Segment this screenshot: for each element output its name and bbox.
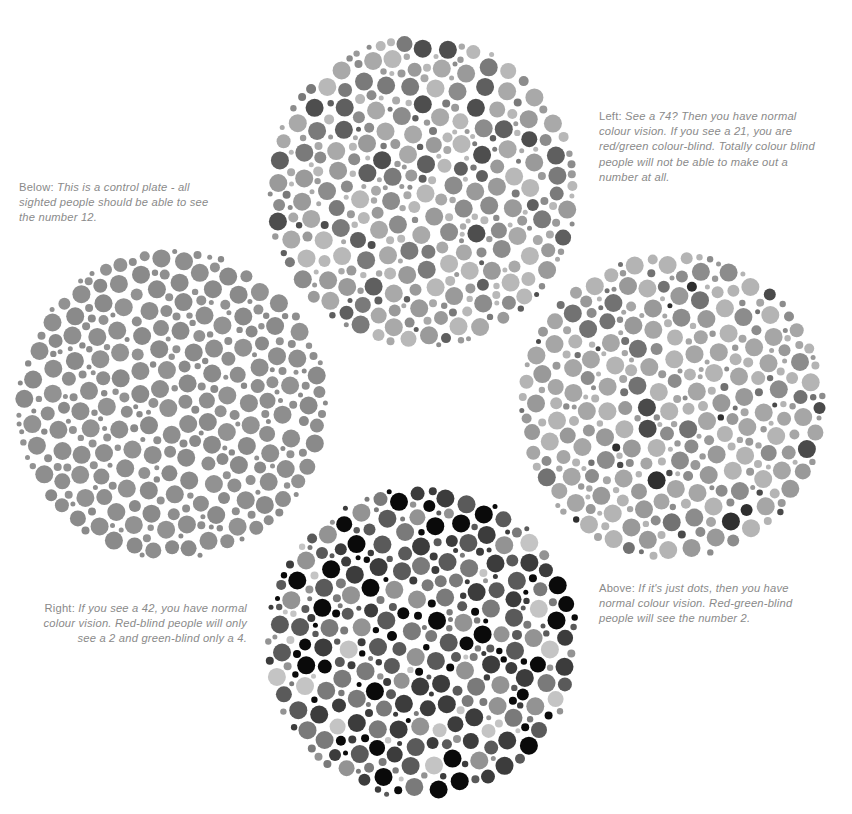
plate-dot [101,390,107,396]
plate-dot [533,365,551,383]
plate-dot [779,344,791,356]
plate-dot [625,364,637,376]
plate-dot [125,516,143,534]
plate-dot [121,406,133,418]
plate-dot [623,542,635,554]
plate-dot [707,529,725,547]
plate-dot [730,368,748,386]
plate-dot [405,169,417,181]
plate-dot [409,509,425,525]
plate-dot [493,574,498,579]
plate-dot [229,518,247,536]
plate-dot [470,164,476,170]
plate-dot [387,747,403,763]
plate-dot [414,327,419,332]
plate-dot [103,434,111,442]
plate-dot [623,439,641,457]
plate-dot [195,363,201,369]
plate-dot [509,227,527,245]
plate-dot [648,471,666,489]
plate-dot [342,608,354,620]
plate-dot [474,625,492,643]
plate-dot [191,406,199,414]
plate-dot [272,635,277,640]
plate-dot [544,115,562,133]
plate-dot [459,534,477,552]
plate-dot [178,515,196,533]
plate-dot [105,532,123,550]
plate-dot [280,446,285,451]
plate-dot [118,480,136,498]
plate-dot [619,375,627,383]
plate-dot [539,550,549,560]
plate-dot [154,465,159,470]
caption-top-lead: Left: [599,110,625,122]
plate-dot [200,514,205,519]
plate-dot [278,398,283,403]
plate-dot [739,335,747,343]
plate-dot [683,403,695,415]
plate-dot [365,497,370,502]
plate-dot [671,421,677,427]
plate-dot [334,638,340,644]
plate-dot [624,317,642,335]
plate-dot [261,444,279,462]
plate-dot [93,279,107,293]
ishihara-plate-42 [262,483,582,803]
plate-dot [296,222,302,228]
plate-dot [665,350,683,368]
plate-dot [289,114,307,132]
plate-dot [70,393,78,401]
plate-dot [754,460,762,468]
plate-dot [49,334,63,348]
plate-dot [757,497,775,515]
plate-dot [17,422,22,427]
plate-dot [311,697,317,703]
plate-dot [527,226,532,231]
plate-dot [172,345,180,353]
plate-dot [471,524,477,530]
plate-dot [454,272,459,277]
plate-dot [136,411,142,417]
plate-dot [490,160,504,174]
plate-dot [238,437,256,455]
plate-dot [419,175,427,183]
plate-dot [482,724,496,738]
plate-dot [617,495,629,507]
plate-dot [436,589,454,607]
plate-dot [263,313,269,319]
plate-dot [79,371,87,379]
plate-dot [152,270,158,276]
plate-dot [368,656,373,661]
plate-dot [444,750,462,768]
plate-dot [311,572,319,580]
plate-dot [397,607,409,619]
plate-dot [448,617,453,622]
plate-dot [194,251,202,259]
plate-dot [251,358,269,376]
plate-dot [370,221,388,239]
plate-dot [558,201,576,219]
plate-dot [297,552,315,570]
plate-dot [54,442,72,460]
plate-dot [688,383,706,401]
plate-dot [618,401,632,415]
plate-dot [483,262,501,280]
plate-dot [365,278,383,296]
plate-dot [387,337,395,345]
plate-dot [777,509,783,515]
plate-dot [372,207,384,219]
plate-dot [454,614,472,632]
plate-dot [405,778,423,796]
plate-dot [519,408,524,413]
plate-dot [620,270,626,276]
plate-dot [673,395,681,403]
plate-dot [444,509,454,519]
plate-dot [328,134,333,139]
plate-dot [374,492,388,506]
plate-dot [451,104,459,112]
plate-dot [585,495,590,500]
plate-dot [667,330,683,346]
plate-dot [586,485,592,491]
plate-dot [463,177,468,182]
